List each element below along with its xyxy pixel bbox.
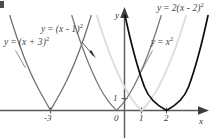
x-tick-label-minus-3: -3 xyxy=(44,114,52,123)
axis-group xyxy=(0,7,209,138)
label-op: = xyxy=(48,24,53,34)
label-body: (x - 1) xyxy=(56,24,80,34)
label-exponent: 2 xyxy=(170,35,173,42)
leader-line-x-squared xyxy=(141,51,153,73)
label-body: (x + 3) xyxy=(19,37,46,47)
label-exponent: 2 xyxy=(80,22,83,29)
curve-x-minus-1-squared xyxy=(97,16,186,111)
label-op: = xyxy=(11,37,16,47)
x-axis-arrowhead xyxy=(198,106,209,115)
label-y-equals-2-x-minus-2-squared: y = 2(x - 2)2 xyxy=(157,4,204,14)
label-body: 2(x - 2) xyxy=(172,3,201,13)
curve-2-x-minus-2-squared xyxy=(125,16,208,111)
label-exponent: 2 xyxy=(46,35,49,42)
label-lhs: y xyxy=(157,3,161,13)
label-lhs: y xyxy=(41,24,45,34)
leader-line-x-plus-3 xyxy=(16,51,26,69)
x-tick-label-0: 0 xyxy=(114,114,119,123)
label-lhs: y xyxy=(4,37,8,47)
label-lhs: y xyxy=(151,37,155,47)
figure-container: y = (x + 3)2 y = (x - 1)2 y = x2 y = 2(x… xyxy=(0,0,224,138)
x-tick-label-2: 2 xyxy=(164,114,169,123)
label-exponent: 2 xyxy=(201,1,204,8)
label-op: = xyxy=(158,37,163,47)
label-op: = xyxy=(164,3,169,13)
label-y-equals-x-minus-1-squared: y = (x - 1)2 xyxy=(41,25,83,35)
x-tick-label-1: 1 xyxy=(139,114,144,123)
parabola-plot xyxy=(0,0,224,138)
y-axis-name: y xyxy=(115,11,119,20)
label-y-equals-x-squared: y = x2 xyxy=(151,38,173,48)
leader-arrowhead-x-minus-1 xyxy=(90,50,97,59)
label-y-equals-x-plus-3-squared: y = (x + 3)2 xyxy=(4,38,49,48)
x-axis-name: x xyxy=(199,117,203,126)
y-tick-label-1: 1 xyxy=(113,94,118,103)
